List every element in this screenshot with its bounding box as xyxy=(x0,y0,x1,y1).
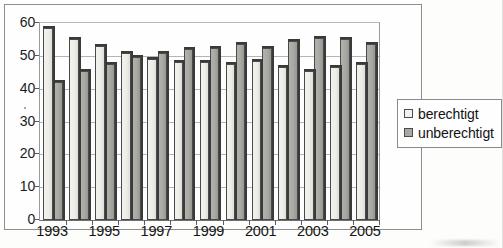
bar-berechtigt-1997[interactable] xyxy=(147,59,157,220)
bar-group xyxy=(327,23,353,220)
bar-front-face xyxy=(262,48,272,220)
bar-unberechtigt-2002[interactable] xyxy=(288,41,298,220)
y-tick-mark xyxy=(34,22,39,23)
bar-front-face xyxy=(174,62,184,220)
bar-unberechtigt-1997[interactable] xyxy=(158,53,168,220)
x-tick-label: 2005 xyxy=(349,223,380,239)
bar-unberechtigt-1993[interactable] xyxy=(53,82,63,220)
bar-side-face xyxy=(376,42,378,220)
bar-group xyxy=(353,23,379,220)
bar-group xyxy=(275,23,301,220)
legend-label: berechtigt xyxy=(418,107,478,121)
bar-berechtigt-2000[interactable] xyxy=(226,64,236,220)
bar-group xyxy=(40,23,66,220)
bar-berechtigt-2005[interactable] xyxy=(356,64,366,220)
bar-unberechtigt-1996[interactable] xyxy=(132,57,142,220)
bar-berechtigt-2003[interactable] xyxy=(304,71,314,220)
y-tick-mark xyxy=(34,153,39,154)
bar-berechtigt-1998[interactable] xyxy=(174,62,184,220)
bar-side-face xyxy=(366,62,368,220)
bar-front-face xyxy=(53,82,63,220)
x-tick-label: 1999 xyxy=(193,223,224,239)
bar-front-face xyxy=(200,62,210,220)
bar-front-face xyxy=(314,38,324,220)
gray-square-icon xyxy=(404,128,413,137)
bar-front-face xyxy=(278,67,288,220)
bar-berechtigt-2004[interactable] xyxy=(330,67,340,220)
bar-side-face xyxy=(261,59,263,220)
y-tick-mark xyxy=(34,55,39,56)
bar-berechtigt-1999[interactable] xyxy=(200,62,210,220)
bar-side-face xyxy=(350,37,352,220)
bar-unberechtigt-1998[interactable] xyxy=(184,49,194,220)
bar-unberechtigt-2005[interactable] xyxy=(366,44,376,220)
bar-side-face xyxy=(89,69,91,220)
bar-unberechtigt-2003[interactable] xyxy=(314,38,324,220)
legend-item-berechtigt[interactable]: berechtigt xyxy=(404,104,494,123)
x-tick-label: 1997 xyxy=(141,223,172,239)
bar-unberechtigt-2004[interactable] xyxy=(340,39,350,220)
bar-berechtigt-1996[interactable] xyxy=(121,53,131,220)
bar-side-face xyxy=(245,42,247,220)
bar-front-face xyxy=(340,39,350,220)
bar-unberechtigt-1999[interactable] xyxy=(210,48,220,220)
bar-side-face xyxy=(314,69,316,220)
bar-front-face xyxy=(121,53,131,220)
bar-group xyxy=(223,23,249,220)
scan-artifact-speck xyxy=(24,107,26,109)
bar-side-face xyxy=(272,46,274,220)
x-tick-label: 2003 xyxy=(297,223,328,239)
bar-unberechtigt-1994[interactable] xyxy=(79,71,89,220)
bar-berechtigt-2001[interactable] xyxy=(252,61,262,220)
legend-item-unberechtigt[interactable]: unberechtigt xyxy=(404,123,494,142)
bar-group xyxy=(301,23,327,220)
bar-berechtigt-1994[interactable] xyxy=(69,39,79,220)
x-tick-label: 1995 xyxy=(88,223,119,239)
bar-side-face xyxy=(131,51,133,220)
y-tick-label: 20 xyxy=(20,146,35,160)
scanned-page-background: 0102030405060 19931995199719992001200320… xyxy=(0,0,503,248)
bar-group xyxy=(249,23,275,220)
bar-side-face xyxy=(115,62,117,220)
y-tick-label: 10 xyxy=(20,179,35,193)
bar-front-face xyxy=(43,28,53,220)
bar-front-face xyxy=(356,64,366,220)
y-tick-mark xyxy=(34,121,39,122)
y-tick-label: 40 xyxy=(20,81,35,95)
legend-label: unberechtigt xyxy=(418,126,494,140)
bar-unberechtigt-2000[interactable] xyxy=(236,44,246,220)
bar-front-face xyxy=(210,48,220,220)
bar-side-face xyxy=(298,39,300,220)
bar-berechtigt-1993[interactable] xyxy=(43,28,53,220)
bar-side-face xyxy=(219,46,221,220)
bar-side-face xyxy=(209,60,211,220)
chart-frame: 0102030405060 19931995199719992001200320… xyxy=(4,4,422,230)
bar-berechtigt-1995[interactable] xyxy=(95,46,105,220)
bar-side-face xyxy=(324,36,326,220)
light-square-icon xyxy=(404,109,413,118)
bar-side-face xyxy=(193,47,195,220)
bar-front-face xyxy=(366,44,376,220)
bar-side-face xyxy=(141,55,143,220)
bar-berechtigt-2002[interactable] xyxy=(278,67,288,220)
y-axis: 0102030405060 xyxy=(9,5,35,248)
bar-side-face xyxy=(157,57,159,220)
bar-side-face xyxy=(53,26,55,220)
y-tick-label: 50 xyxy=(20,48,35,62)
bar-front-face xyxy=(132,57,142,220)
y-tick-label: 30 xyxy=(20,114,35,128)
bar-unberechtigt-1995[interactable] xyxy=(105,64,115,220)
x-tick-label: 2001 xyxy=(245,223,276,239)
bar-front-face xyxy=(95,46,105,220)
bar-front-face xyxy=(330,67,340,220)
bar-unberechtigt-2001[interactable] xyxy=(262,48,272,220)
bar-group xyxy=(66,23,92,220)
bar-front-face xyxy=(236,44,246,220)
y-tick-mark xyxy=(34,186,39,187)
legend: berechtigt unberechtigt xyxy=(397,99,502,148)
bar-group xyxy=(118,23,144,220)
bar-front-face xyxy=(226,64,236,220)
bar-front-face xyxy=(304,71,314,220)
bar-side-face xyxy=(79,37,81,220)
bar-side-face xyxy=(340,65,342,220)
